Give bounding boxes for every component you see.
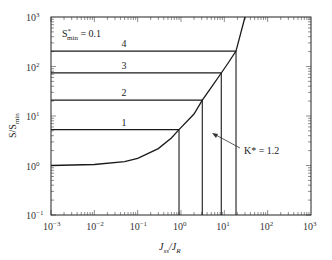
y-tick-label: 102 — [26, 61, 40, 73]
k-arrow-head — [212, 133, 218, 138]
x-tick-label: 10−2 — [86, 220, 104, 232]
y-tick-labels: 10−1100101102103 — [26, 11, 44, 221]
x-tick-label: 101 — [216, 220, 230, 232]
axis-ticks — [51, 17, 311, 215]
y-tick-label: 103 — [26, 11, 40, 23]
y-tick-label: 101 — [26, 110, 40, 122]
x-tick-label: 10−1 — [130, 220, 148, 232]
x-tick-label: 100 — [173, 220, 187, 232]
plot-frame — [51, 17, 311, 215]
x-tick-label: 103 — [303, 220, 317, 232]
x-tick-label: 10−3 — [43, 220, 61, 232]
data-lines: 1234 — [51, 38, 236, 215]
chart: 1234 10−310−210−1100101102103 10−1100101… — [0, 0, 332, 260]
x-tick-label: 102 — [260, 220, 274, 232]
y-axis-label: S/Smin — [7, 113, 21, 138]
k-curve — [51, 17, 245, 166]
x-axis-label: Jss/JR — [159, 241, 181, 255]
line-label-4: 4 — [122, 38, 127, 49]
line-label-2: 2 — [122, 87, 127, 98]
y-tick-label: 10−1 — [26, 209, 44, 221]
line-label-1: 1 — [122, 117, 127, 128]
y-tick-label: 100 — [26, 160, 40, 172]
k-annotation: K* = 1.2 — [244, 145, 279, 156]
smin-annotation: S*min = 0.1 — [62, 27, 101, 42]
x-tick-labels: 10−310−210−1100101102103 — [43, 220, 317, 232]
line-label-3: 3 — [122, 60, 127, 71]
